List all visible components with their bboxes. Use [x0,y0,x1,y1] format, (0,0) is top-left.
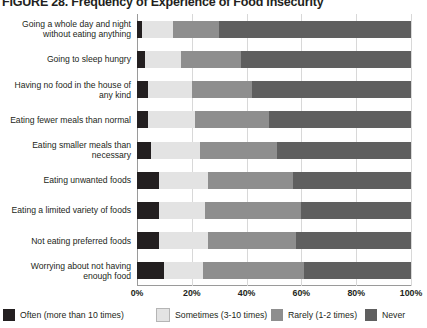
bar-segment [203,262,304,279]
x-tick-label: 40% [238,288,256,299]
bar-segment [159,172,208,189]
bar-segment [137,262,164,279]
category-label: Going to sleep hungry [0,54,131,64]
stacked-bar [137,81,411,98]
bar-segment [269,111,411,128]
bar-segment [145,51,181,68]
x-tick-label: 80% [347,288,365,299]
bar-segment [137,111,148,128]
bar-segment [192,81,252,98]
category-label: Eating smaller meals than necessary [0,140,131,160]
stacked-bar [137,232,411,249]
bar-row [137,111,411,128]
bar-rows [137,14,411,286]
x-tick-label: 0% [131,288,144,299]
stacked-bar [137,142,411,159]
legend-swatch-icon [3,309,15,321]
figure-title: FIGURE 28. Frequency of Experience of Fo… [2,0,425,9]
bar-segment [148,81,192,98]
bar-segment [159,202,206,219]
bar-segment [241,51,411,68]
category-axis-labels: Going a whole day and night without eati… [0,14,131,286]
bar-row [137,81,411,98]
legend-swatch-icon [271,309,283,321]
chart-legend: Often (more than 10 times)Sometimes (3-1… [3,308,427,324]
bar-row [137,202,411,219]
bar-segment [200,142,277,159]
bar-segment [181,51,241,68]
bar-segment [219,21,411,38]
bar-segment [142,21,172,38]
plot-area [137,14,411,286]
bar-segment [137,142,151,159]
bar-segment [137,81,148,98]
bar-segment [173,21,220,38]
legend-label: Sometimes (3-10 times) [175,309,267,321]
bar-segment [137,172,159,189]
bar-segment [195,111,269,128]
legend-item[interactable]: Often (more than 10 times) [3,308,124,322]
category-label: Worrying about not having enough food [0,261,131,281]
bar-segment [252,81,411,98]
x-axis-tick-labels: 0%20%40%60%80%100% [0,288,427,300]
bar-segment [159,232,208,249]
bar-segment [277,142,411,159]
legend-swatch-icon [156,308,170,322]
bar-segment [137,51,145,68]
legend-label: Often (more than 10 times) [20,309,124,321]
category-label: Having no food in the house of any kind [0,80,131,100]
stacked-bar [137,172,411,189]
stacked-bar [137,202,411,219]
category-label: Going a whole day and night without eati… [0,19,131,39]
bar-segment [304,262,411,279]
bar-segment [296,232,411,249]
stacked-bar [137,111,411,128]
bar-segment [293,172,411,189]
bar-segment [208,172,293,189]
legend-label: Never [382,309,405,321]
category-label: Eating unwanted foods [0,175,131,185]
figure-container: FIGURE 28. Frequency of Experience of Fo… [0,0,427,328]
bar-row [137,262,411,279]
bar-segment [137,232,159,249]
bar-row [137,51,411,68]
legend-swatch-icon [365,309,377,321]
stacked-bar [137,21,411,38]
bar-segment [208,232,296,249]
category-label: Eating fewer meals than normal [0,115,131,125]
bar-row [137,232,411,249]
bar-row [137,172,411,189]
x-tick-label: 60% [293,288,311,299]
bar-segment [205,202,301,219]
bar-row [137,142,411,159]
bar-segment [137,202,159,219]
bar-segment [148,111,195,128]
x-tick-label: 20% [183,288,201,299]
category-label: Eating a limited variety of foods [0,205,131,215]
legend-item[interactable]: Never [365,308,405,322]
bar-segment [164,262,202,279]
bar-segment [151,142,200,159]
stacked-bar [137,51,411,68]
stacked-bar [137,262,411,279]
gridline-100 [411,14,412,286]
bar-segment [301,202,411,219]
x-tick-label: 100% [400,288,423,299]
legend-item[interactable]: Rarely (1-2 times) [271,308,357,322]
category-label: Not eating preferred foods [0,236,131,246]
legend-item[interactable]: Sometimes (3-10 times) [156,308,267,322]
bar-row [137,21,411,38]
legend-label: Rarely (1-2 times) [288,309,357,321]
